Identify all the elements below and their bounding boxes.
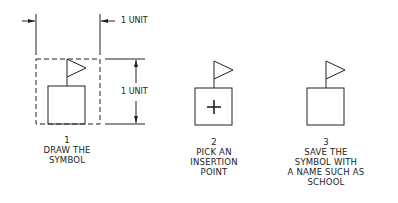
flag-symbol-icon <box>307 61 345 125</box>
step-2-caption: 2 PICK AN INSERTION POINT <box>164 137 264 177</box>
step-1-caption: 1 DRAW THE SYMBOL <box>17 135 117 165</box>
caption-line: PICK AN <box>164 147 264 157</box>
arrowhead-icon <box>28 19 35 23</box>
step-number: 2 <box>164 137 264 147</box>
caption-line: SYMBOL <box>17 155 117 165</box>
caption-line: SAVE THE <box>268 147 384 157</box>
arrowhead-icon <box>101 19 108 23</box>
caption-line: A NAME SUCH AS <box>268 167 384 177</box>
caption-line: POINT <box>164 167 264 177</box>
arrowhead-icon <box>134 116 138 123</box>
caption-line: SYMBOL WITH <box>268 157 384 167</box>
unit-bounding-box <box>36 59 100 124</box>
insertion-point-cross-icon <box>207 100 221 114</box>
arrowhead-icon <box>134 60 138 67</box>
vertical-dimension-label: 1 UNIT <box>121 87 148 96</box>
step-3-caption: 3 SAVE THE SYMBOL WITH A NAME SUCH AS SC… <box>268 137 384 187</box>
step-number: 3 <box>268 137 384 147</box>
caption-line: DRAW THE <box>17 145 117 155</box>
caption-line: INSERTION <box>164 157 264 167</box>
flag-symbol-icon <box>195 61 233 125</box>
horizontal-dimension-label: 1 UNIT <box>121 16 148 25</box>
flag-symbol-icon <box>48 59 86 124</box>
caption-line: SCHOOL <box>268 177 384 187</box>
step-number: 1 <box>17 135 117 145</box>
